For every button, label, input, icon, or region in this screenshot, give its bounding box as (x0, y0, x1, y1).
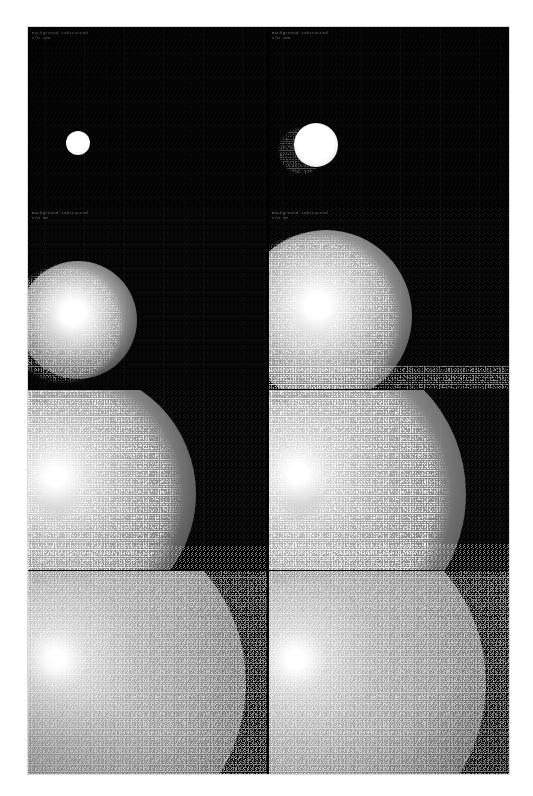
panel-r4c2[interactable]: Background subtracted S/N 3 (268, 571, 509, 774)
column-gutter (267, 27, 269, 774)
panel-label-line2: S/N 30 (32, 216, 88, 221)
panel-label: Background subtracted S/N 100 (272, 31, 328, 41)
panel-r2c1[interactable]: Background subtracted S/N 30 (28, 207, 267, 389)
bottom-noise-band (268, 365, 509, 389)
panel-r1c2[interactable]: Background subtracted S/N 100 (268, 27, 509, 206)
noise-grain (28, 27, 267, 206)
source-core (268, 571, 486, 774)
source-core (28, 571, 246, 774)
noise-grain (28, 571, 267, 774)
panel-label-line2: S/N 3 (272, 580, 328, 585)
source-core (66, 131, 90, 155)
bottom-noise-band (28, 546, 267, 570)
panel-label: Background subtracted S/N 10 (272, 394, 328, 404)
noise-grain (268, 207, 509, 389)
source-core (294, 123, 338, 167)
source-core (28, 390, 196, 570)
source-speckle (28, 207, 267, 389)
source-speckle (268, 27, 509, 206)
noise-grain (28, 207, 267, 389)
bottom-noise-band (268, 544, 509, 570)
panel-label: Background subtracted S/N 100 (32, 31, 88, 41)
panel-r3c2[interactable]: Background subtracted S/N 10 (268, 390, 509, 570)
image-plate: Background subtracted S/N 100 Background… (28, 27, 509, 774)
panel-label: Background subtracted S/N 10 (32, 394, 88, 404)
panel-label-line2: S/N 10 (32, 399, 88, 404)
panel-label: Background subtracted S/N 30 (32, 211, 88, 221)
noise-grain (28, 390, 267, 570)
source-core (28, 261, 137, 379)
panel-label: Background subtracted S/N 3 (272, 575, 328, 585)
source-core (268, 390, 466, 570)
figure-root: Background subtracted S/N 100 Background… (0, 0, 533, 796)
noise-grain (268, 571, 509, 774)
panel-r4c1[interactable]: Background subtracted S/N 3 (28, 571, 267, 774)
source-core (268, 230, 412, 389)
panel-label-line2: S/N 100 (272, 36, 328, 41)
panel-label-line2: S/N 10 (272, 399, 328, 404)
panel-label-line2: S/N 30 (272, 216, 328, 221)
panel-label: Background subtracted S/N 30 (272, 211, 328, 221)
panel-label-line2: S/N 100 (32, 36, 88, 41)
panel-label: Background subtracted S/N 3 (32, 575, 88, 585)
source-speckle (268, 207, 509, 389)
noise-grain (268, 390, 509, 570)
noise-grain-fine (268, 571, 509, 774)
source-speckle (28, 390, 267, 570)
noise-grain-fine (28, 571, 267, 774)
source-speckle (268, 390, 509, 570)
panel-r2c2[interactable]: Background subtracted S/N 30 (268, 207, 509, 389)
panel-r3c1[interactable]: Background subtracted S/N 10 (28, 390, 267, 570)
panel-label-line2: S/N 3 (32, 580, 88, 585)
panel-r1c1[interactable]: Background subtracted S/N 100 (28, 27, 267, 206)
noise-grain (268, 27, 509, 206)
